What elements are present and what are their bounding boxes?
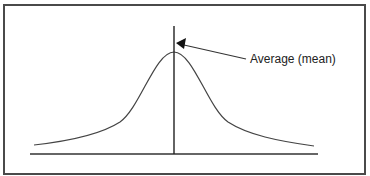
annotation-arrowhead-icon bbox=[176, 38, 186, 49]
annotation-arrow-shaft bbox=[184, 45, 246, 59]
annotation-label: Average (mean) bbox=[250, 52, 336, 66]
normal-distribution-diagram bbox=[0, 0, 370, 176]
